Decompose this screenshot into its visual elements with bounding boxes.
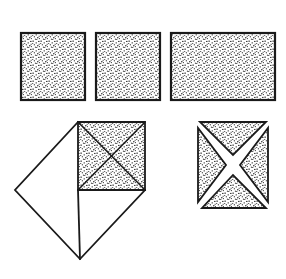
square-one (21, 33, 85, 100)
square-two (96, 33, 160, 100)
top-row-rectangles (21, 33, 275, 100)
rectangle-three (171, 33, 275, 100)
figure-canvas (0, 0, 286, 279)
